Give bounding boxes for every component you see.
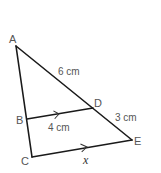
- triangle-diagram: A B C D E 6 cm 3 cm 4 cm x: [0, 0, 161, 173]
- label-c: C: [21, 155, 29, 167]
- label-b: B: [16, 114, 23, 126]
- side-ac: [16, 46, 32, 157]
- label-e: E: [134, 135, 141, 147]
- side-ce: [32, 140, 132, 157]
- segment-bd: [27, 108, 93, 119]
- measure-bd: 4 cm: [48, 122, 70, 133]
- measure-ce: x: [82, 153, 89, 167]
- label-a: A: [9, 33, 17, 45]
- label-d: D: [94, 97, 102, 109]
- measure-de: 3 cm: [115, 112, 137, 123]
- measure-ad: 6 cm: [58, 66, 80, 77]
- side-ae: [16, 46, 132, 140]
